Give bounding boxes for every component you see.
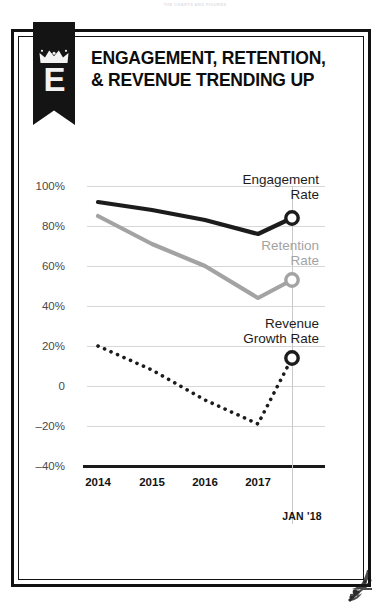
series-endpoint-marker-1 [286,274,298,286]
series-label-retention: Retention Rate [161,238,319,268]
endpoint-date-label: JAN '18 [282,510,322,522]
series-label-revenue: Revenue Growth Rate [151,316,319,346]
trend-line-chart: 100%80%60%40%20%0–20%–40% 20142015201620… [11,160,361,540]
series-label-engagement: Engagement Rate [161,172,319,202]
page-title: ENGAGEMENT, RETENTION, & REVENUE TRENDIN… [91,48,341,91]
corner-flourish-icon [345,569,375,603]
series-line-2 [98,346,292,424]
chart-series-plot [11,160,361,540]
brand-banner: E [33,22,75,125]
page-header-strip: THE CHARTS AND FIGURES [140,2,250,7]
series-endpoint-marker-0 [286,212,298,224]
brand-letter: E [33,63,75,96]
series-endpoint-marker-2 [286,352,298,364]
